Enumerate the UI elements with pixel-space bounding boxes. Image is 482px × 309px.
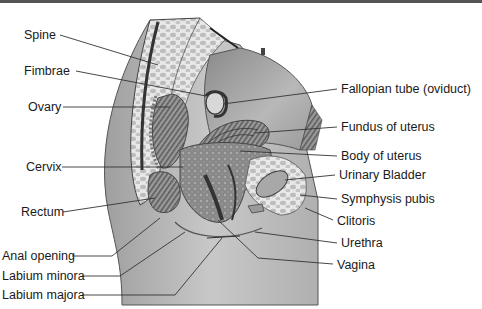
label-spine: Spine [24,28,56,42]
label-anal-opening: Anal opening [2,249,75,263]
label-fallopian-tube: Fallopian tube (oviduct) [341,82,471,96]
label-fimbrae: Fimbrae [24,64,70,78]
label-body-of-uterus: Body of uterus [341,149,422,163]
label-clitoris: Clitoris [337,214,375,228]
label-symphysis-pubis: Symphysis pubis [341,192,435,206]
label-labium-minora: Labium minora [2,269,85,283]
label-ovary: Ovary [28,100,61,114]
label-urethra: Urethra [341,236,383,250]
label-fundus-of-uterus: Fundus of uterus [341,120,435,134]
label-cervix: Cervix [26,160,61,174]
label-vagina: Vagina [337,258,375,272]
label-urinary-bladder: Urinary Bladder [339,168,426,182]
label-labium-majora: Labium majora [2,288,85,302]
label-rectum: Rectum [21,205,64,219]
